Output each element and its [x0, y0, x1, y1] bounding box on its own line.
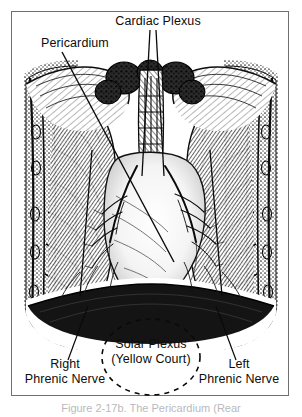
label-right-phrenic-line1: Right — [22, 357, 108, 372]
label-cardiac-plexus: Cardiac Plexus — [93, 14, 223, 29]
label-left-phrenic-line1: Left — [196, 357, 282, 372]
label-pericardium: Pericardium — [22, 36, 128, 51]
label-left-phrenic-line2: Phrenic Nerve — [192, 372, 286, 387]
anatomical-figure: Cardiac Plexus Pericardium Solar Plexus … — [0, 0, 302, 417]
label-solar-plexus-line2: (Yellow Court) — [104, 352, 198, 367]
figure-caption: Figure 2-17b. The Pericardium (Rear — [0, 402, 302, 417]
label-right-phrenic-line2: Phrenic Nerve — [18, 372, 112, 387]
thoracic-cavity — [20, 50, 282, 360]
label-solar-plexus-line1: Solar Plexus — [104, 337, 198, 352]
